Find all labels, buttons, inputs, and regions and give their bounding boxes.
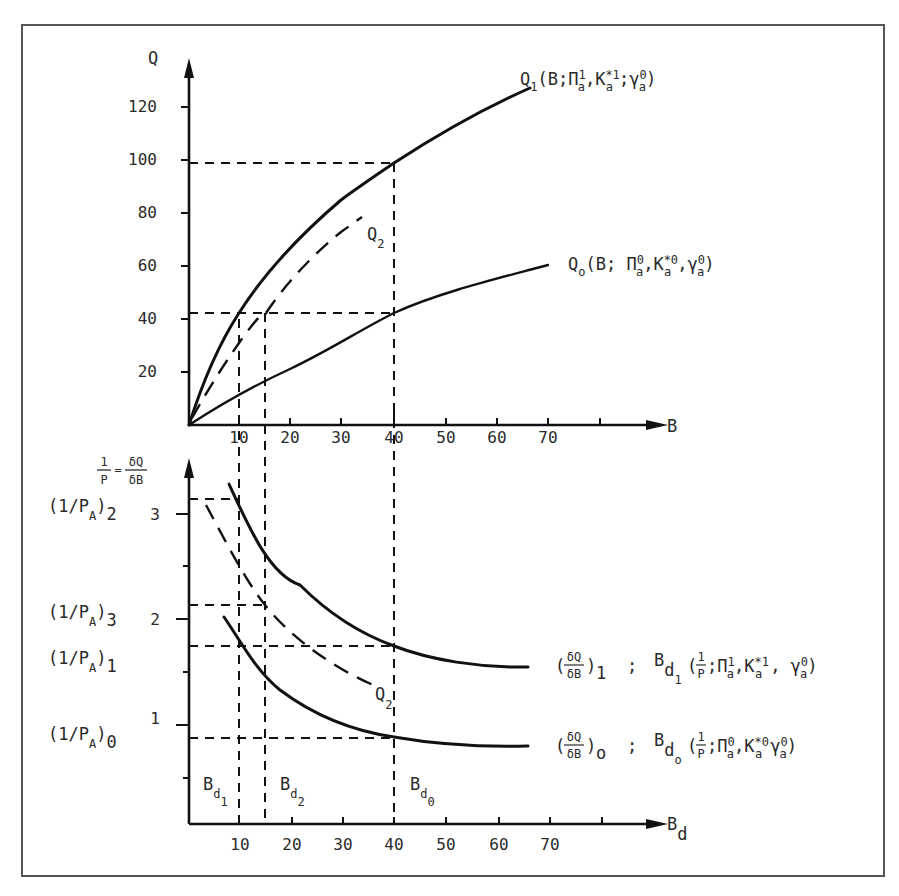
top-x-tick-label: 50 bbox=[436, 428, 455, 447]
svg-text:o: o bbox=[596, 743, 606, 763]
svg-text:1: 1 bbox=[596, 663, 606, 683]
svg-text:): ) bbox=[586, 656, 596, 676]
top-y-tick-label: 100 bbox=[128, 150, 157, 169]
svg-text:(: ( bbox=[555, 656, 565, 676]
bottom-y-tick-label: 2 bbox=[150, 610, 160, 629]
top-y-tick-label: 60 bbox=[138, 256, 157, 275]
top-y-tick-label: 80 bbox=[138, 203, 157, 222]
bottom-y-tick-label: 3 bbox=[150, 505, 160, 524]
svg-text:P: P bbox=[697, 747, 704, 761]
svg-text:P: P bbox=[100, 473, 107, 487]
bottom-y-tick-label: 1 bbox=[150, 709, 160, 728]
top-x-tick-label: 30 bbox=[331, 428, 350, 447]
top-y-tick-label: 20 bbox=[138, 362, 157, 381]
svg-text:1: 1 bbox=[697, 650, 704, 664]
svg-text:;: ; bbox=[627, 656, 637, 676]
svg-text:P: P bbox=[697, 667, 704, 681]
svg-text:δB: δB bbox=[567, 747, 581, 761]
bottom-x-tick-label: 20 bbox=[282, 835, 301, 854]
bottom-x-tick-label: 30 bbox=[333, 835, 352, 854]
svg-text:δB: δB bbox=[567, 667, 581, 681]
svg-text:1: 1 bbox=[100, 455, 107, 469]
top-x-tick-label: 60 bbox=[487, 428, 506, 447]
svg-text:δQ: δQ bbox=[567, 650, 581, 664]
bottom-x-tick-label: 10 bbox=[230, 835, 249, 854]
svg-text:=: = bbox=[114, 463, 121, 477]
top-y-tick-label: 40 bbox=[138, 309, 157, 328]
top-x-tick-label: 70 bbox=[538, 428, 557, 447]
svg-text:;: ; bbox=[627, 736, 637, 756]
bottom-x-tick-label: 40 bbox=[384, 835, 403, 854]
svg-text:(: ( bbox=[687, 736, 697, 756]
svg-text:δB: δB bbox=[129, 473, 143, 487]
top-x-title: B bbox=[667, 416, 677, 436]
top-x-tick-label: 20 bbox=[280, 428, 299, 447]
svg-text:(: ( bbox=[687, 656, 697, 676]
svg-text:δQ: δQ bbox=[567, 730, 581, 744]
svg-text:(: ( bbox=[555, 736, 565, 756]
bottom-x-tick-label: 50 bbox=[436, 835, 455, 854]
svg-text:1: 1 bbox=[697, 730, 704, 744]
svg-text:): ) bbox=[586, 736, 596, 756]
top-y-title: Q bbox=[148, 48, 158, 68]
svg-text:δQ: δQ bbox=[129, 455, 143, 469]
bottom-x-tick-label: 60 bbox=[489, 835, 508, 854]
economic-diagram: Q B 20 40 60 80 100 120 10 bbox=[0, 0, 899, 896]
top-y-tick-label: 120 bbox=[128, 97, 157, 116]
bottom-x-tick-label: 70 bbox=[540, 835, 559, 854]
